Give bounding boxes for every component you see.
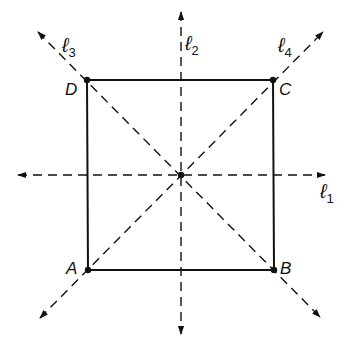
axis-label-l1: ℓ1 xyxy=(319,180,334,206)
vertex-label-b: B xyxy=(280,259,291,278)
center-dot xyxy=(178,172,184,178)
vertex-dot-b xyxy=(271,267,277,273)
vertex-dot-d xyxy=(84,77,90,83)
axis-label-l3: ℓ3 xyxy=(61,34,76,60)
vertex-label-d: D xyxy=(65,80,77,99)
vertex-dot-a xyxy=(85,267,91,273)
axis-label-l2: ℓ2 xyxy=(184,32,199,58)
vertex-dot-c xyxy=(270,77,276,83)
vertex-label-a: A xyxy=(65,259,77,278)
axis-label-l4: ℓ4 xyxy=(277,34,292,60)
square-symmetry-diagram: A B C D ℓ1 ℓ2 ℓ3 ℓ4 xyxy=(0,0,351,343)
vertex-label-c: C xyxy=(279,80,292,99)
